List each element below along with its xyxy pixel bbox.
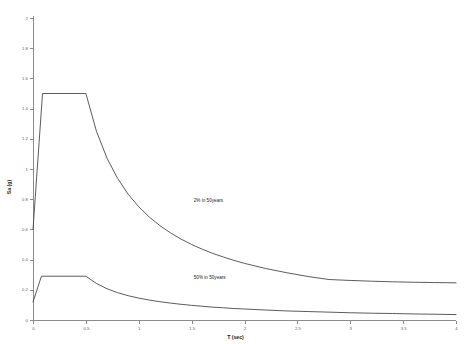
y-tick-label: 0.6	[22, 227, 29, 232]
series-layer	[33, 94, 456, 315]
x-tick-label: 0	[32, 326, 35, 331]
x-tick-label: 4	[455, 326, 458, 331]
x-tick-label: 2	[244, 326, 247, 331]
y-axis: 00.20.40.60.811.21.41.61.82	[22, 16, 33, 323]
x-tick-label: 3	[350, 326, 353, 331]
y-tick-label: 1	[26, 167, 29, 172]
x-tick-label: 0.5	[83, 326, 90, 331]
y-tick-label: 2	[26, 16, 29, 21]
y-tick-label: 0.2	[22, 287, 29, 292]
y-tick-label: 1.6	[22, 76, 29, 81]
series-annotation-2: 50% in 50years	[194, 275, 227, 280]
x-tick-label: 3.5	[401, 326, 408, 331]
x-axis-title: T (sec)	[227, 334, 244, 340]
x-axis: 00.511.522.533.54	[32, 321, 458, 331]
x-tick-label: 1	[138, 326, 141, 331]
y-tick-label: 0.4	[22, 257, 29, 262]
chart-canvas: 00.20.40.60.811.21.41.61.82 00.511.522.5…	[0, 0, 467, 344]
x-tick-label: 1.5	[189, 326, 196, 331]
y-tick-label: 1.4	[22, 106, 29, 111]
series-annotations: 2% in 50years50% in 50years	[194, 198, 227, 280]
x-tick-label: 2.5	[295, 326, 302, 331]
y-tick-label: 1.2	[22, 136, 29, 141]
response-spectrum-chart: 00.20.40.60.811.21.41.61.82 00.511.522.5…	[0, 0, 467, 344]
y-tick-label: 1.8	[22, 46, 29, 51]
y-tick-label: 0.8	[22, 197, 29, 202]
series-line-1	[33, 94, 456, 283]
y-tick-label: 0	[26, 318, 29, 323]
y-axis-title: Sa (g)	[6, 180, 12, 195]
series-annotation-1: 2% in 50years	[194, 198, 224, 203]
